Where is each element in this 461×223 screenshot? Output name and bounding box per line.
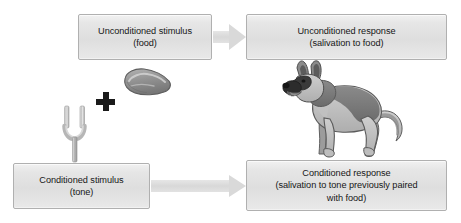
tuning-fork-illustration xyxy=(58,104,92,164)
arrow-head xyxy=(229,24,246,50)
box-unconditioned-stimulus-line1: Unconditioned stimulus xyxy=(83,25,207,37)
box-conditioned-response-line2: (salivation to tone previously paired xyxy=(251,179,442,191)
arrow-shaft xyxy=(151,180,231,192)
box-conditioned-response-line1: Conditioned response xyxy=(251,167,442,179)
box-unconditioned-response: Unconditioned response (salivation to fo… xyxy=(246,14,447,60)
box-unconditioned-response-line1: Unconditioned response xyxy=(251,25,442,37)
box-unconditioned-response-line2: (salivation to food) xyxy=(251,37,442,49)
box-conditioned-stimulus: Conditioned stimulus (tone) xyxy=(13,163,150,209)
box-conditioned-stimulus-line1: Conditioned stimulus xyxy=(18,174,145,186)
arrow-head xyxy=(229,175,246,197)
classical-conditioning-diagram: Unconditioned stimulus (food) Unconditio… xyxy=(0,0,461,223)
right-arrow-icon-bottom xyxy=(151,175,247,197)
box-conditioned-response-line3: with food) xyxy=(251,192,442,204)
box-conditioned-response: Conditioned response (salivation to tone… xyxy=(246,160,447,211)
box-unconditioned-stimulus: Unconditioned stimulus (food) xyxy=(78,14,212,60)
box-unconditioned-stimulus-line2: (food) xyxy=(83,37,207,49)
salivating-dog-illustration xyxy=(280,58,410,160)
right-arrow-icon-top xyxy=(213,24,246,50)
meat-steak-illustration xyxy=(118,64,174,100)
box-conditioned-stimulus-line2: (tone) xyxy=(18,186,145,198)
plus-vertical-bar xyxy=(103,92,109,111)
plus-sign xyxy=(96,92,115,111)
